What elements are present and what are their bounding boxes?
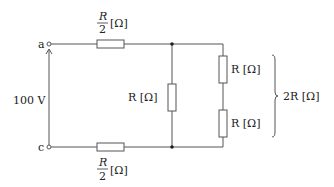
- right-lower-resistor-label: R [Ω]: [231, 117, 260, 130]
- bottom-unit: [Ω]: [110, 164, 128, 177]
- terminal-c-label: c: [38, 141, 44, 154]
- terminal-a-label: a: [38, 38, 45, 51]
- terminal-c: [47, 145, 51, 149]
- resistor-right-lower: [219, 110, 227, 137]
- circuit-diagram: a c 100 V R 2 [Ω] R 2 [Ω] R [Ω] R [Ω] R …: [0, 0, 334, 187]
- bottom-frac-num: R: [98, 156, 107, 169]
- top-unit: [Ω]: [110, 17, 128, 30]
- top-frac-num: R: [98, 10, 107, 23]
- middle-resistor-label: R [Ω]: [128, 91, 157, 104]
- junction-bottom: [170, 145, 174, 149]
- right-upper-resistor-label: R [Ω]: [231, 63, 260, 76]
- resistor-right-upper: [219, 56, 227, 83]
- top-frac-den: 2: [99, 23, 106, 36]
- resistor-middle: [168, 84, 176, 111]
- bottom-frac-den: 2: [99, 170, 106, 183]
- junction-top: [170, 42, 174, 46]
- brace-total-label: 2R [Ω]: [283, 90, 319, 103]
- source-voltage-label: 100 V: [13, 94, 46, 107]
- brace-icon: [272, 55, 278, 137]
- terminal-a: [47, 42, 51, 46]
- circuit-svg: a c 100 V R 2 [Ω] R 2 [Ω] R [Ω] R [Ω] R …: [0, 0, 334, 187]
- resistor-bottom: [97, 143, 124, 151]
- resistor-top: [97, 40, 124, 48]
